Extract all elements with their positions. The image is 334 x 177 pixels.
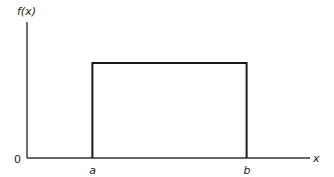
origin-label: 0: [14, 153, 21, 166]
x-tick-label-a: a: [89, 164, 96, 177]
x-axis-label: x: [312, 152, 320, 165]
y-axis-label: f(x): [17, 5, 36, 18]
density-line-0: [92, 63, 246, 158]
uniform-density-chart: f(x) x 0 ab: [0, 0, 334, 177]
x-tick-label-b: b: [244, 164, 251, 177]
